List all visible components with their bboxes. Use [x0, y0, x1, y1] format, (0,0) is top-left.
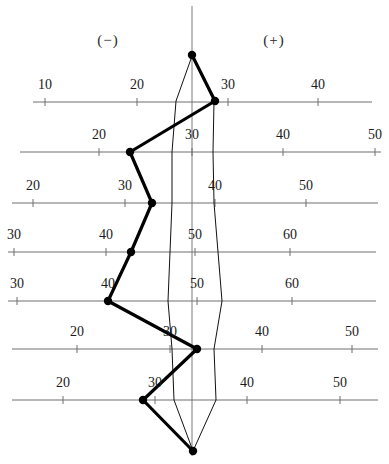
tick-label-row6-40: 40 — [255, 324, 269, 339]
axis-rows-group — [8, 98, 381, 404]
data-point-P7 — [139, 396, 147, 404]
data-point-P2 — [126, 148, 134, 156]
data-point-P5 — [104, 297, 112, 305]
profile-polyline-group — [108, 55, 215, 451]
profile-dots-group — [104, 51, 219, 455]
tick-label-row3-30: 30 — [118, 178, 132, 193]
figure-container: 1020304020304050203040503040506030405060… — [0, 0, 389, 464]
tick-label-row7-30: 30 — [148, 375, 162, 390]
tick-label-row5-40: 40 — [101, 276, 115, 291]
tick-label-row4-40: 40 — [99, 227, 113, 242]
negative-sign-label: (−) — [97, 32, 118, 49]
tick-label-row1-20: 20 — [130, 77, 144, 92]
outline-right-edge — [192, 56, 222, 451]
tick-label-row2-40: 40 — [276, 127, 290, 142]
tick-label-row2-50: 50 — [368, 127, 382, 142]
profile-polyline — [108, 55, 215, 451]
tick-label-row5-50: 50 — [190, 276, 204, 291]
tick-label-row4-50: 50 — [188, 227, 202, 242]
sign-labels-group: (−)(+) — [97, 32, 284, 49]
data-point-P4 — [127, 248, 135, 256]
data-point-P8 — [189, 447, 197, 455]
profile-diagram: 1020304020304050203040503040506030405060… — [0, 0, 389, 464]
tick-label-row2-30: 30 — [185, 127, 199, 142]
data-point-P0 — [188, 51, 196, 59]
data-point-P1 — [211, 97, 219, 105]
positive-sign-label: (+) — [263, 32, 284, 49]
tick-label-row6-50: 50 — [345, 324, 359, 339]
tick-label-row4-60: 60 — [283, 227, 297, 242]
tick-label-row7-50: 50 — [333, 375, 347, 390]
tick-label-row6-30: 30 — [163, 324, 177, 339]
tick-label-row7-20: 20 — [56, 375, 70, 390]
tick-label-row4-30: 30 — [7, 227, 21, 242]
tick-label-row3-50: 50 — [299, 178, 313, 193]
data-point-P3 — [148, 199, 156, 207]
tick-label-row5-30: 30 — [10, 276, 24, 291]
tick-label-row1-30: 30 — [221, 77, 235, 92]
tick-label-row1-10: 10 — [38, 77, 52, 92]
tick-label-row5-60: 60 — [285, 276, 299, 291]
tick-label-row3-40: 40 — [208, 178, 222, 193]
data-point-P6 — [193, 345, 201, 353]
tick-label-row2-20: 20 — [92, 127, 106, 142]
tick-label-row6-20: 20 — [70, 324, 84, 339]
tick-label-row7-40: 40 — [240, 375, 254, 390]
tick-label-row1-40: 40 — [311, 77, 325, 92]
tick-labels-group: 1020304020304050203040503040506030405060… — [7, 77, 382, 390]
tick-label-row3-20: 20 — [26, 178, 40, 193]
